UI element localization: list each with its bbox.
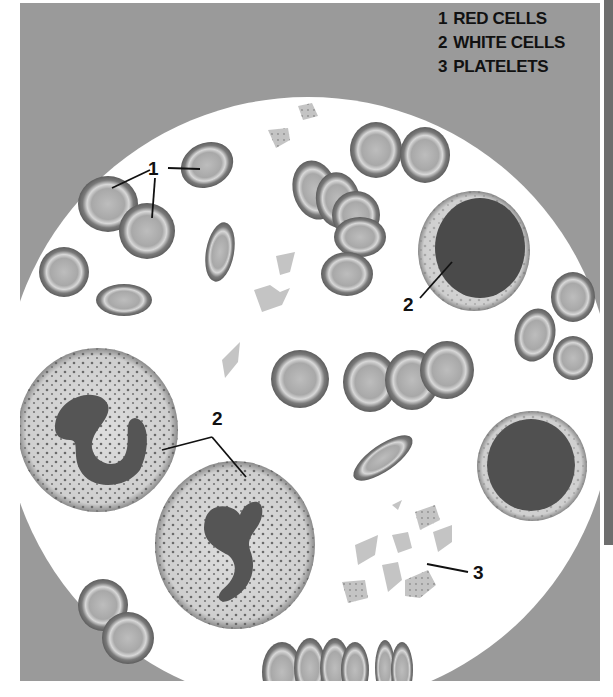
legend-item-platelets: 3PLATELETS [438, 55, 571, 79]
microscope-field [20, 3, 600, 681]
white-cell-neutrophil-right [155, 461, 315, 629]
callout-red-cells: 1 [148, 158, 159, 180]
white-cell-lymphocyte-top [418, 191, 530, 311]
legend-item-red-cells: 1RED CELLS [438, 7, 571, 31]
callout-white-cells-neutrophils: 2 [212, 408, 223, 430]
callout-platelets: 3 [473, 562, 484, 584]
white-cell-lymphocyte-right [477, 411, 587, 521]
illustration-background [20, 3, 600, 681]
white-cell-neutrophil-left [20, 348, 178, 512]
callout-white-cell-lymphocyte: 2 [403, 294, 414, 316]
page-edge-strip [604, 0, 613, 545]
legend: 1RED CELLS 2WHITE CELLS 3PLATELETS [438, 7, 571, 79]
legend-item-white-cells: 2WHITE CELLS [438, 31, 571, 55]
